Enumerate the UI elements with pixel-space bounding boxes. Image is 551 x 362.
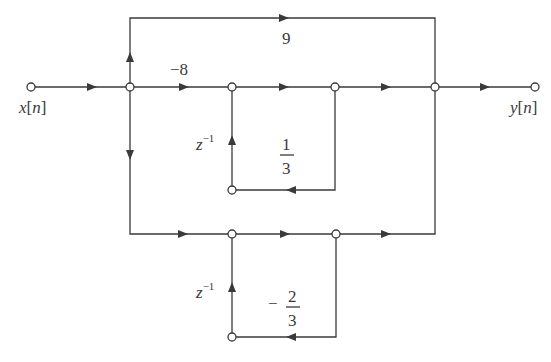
split-node <box>126 83 134 91</box>
lower-tap-node <box>332 230 340 238</box>
arrow-right-icon <box>480 83 490 91</box>
upper-delay-node <box>228 186 236 194</box>
arrow-right-icon <box>280 230 290 238</box>
arrow-up-icon <box>228 135 236 145</box>
output-sum-node <box>431 83 439 91</box>
upper-loop-gain-denominator: 3 <box>282 159 291 178</box>
upper-loop-gain-numerator: 1 <box>282 135 291 154</box>
lower-sum-node <box>228 230 236 238</box>
signal-flow-diagram: x[n] y[n] 9 −8 z−1 z−1 1 3 − 2 3 <box>0 0 551 362</box>
lower-loop-gain-denominator: 3 <box>288 311 297 330</box>
labels: x[n] y[n] 9 −8 z−1 z−1 1 3 − 2 3 <box>18 29 537 330</box>
arrow-right-icon <box>178 230 188 238</box>
arrow-right-icon <box>179 83 189 91</box>
gain-top-feedforward: 9 <box>282 29 291 48</box>
arrow-left-icon <box>286 333 296 341</box>
lower-loop-gain-sign: − <box>268 294 278 313</box>
input-label: x[n] <box>18 98 46 117</box>
lower-feedback-path <box>232 234 336 337</box>
lower-loop-gain-numerator: 2 <box>288 287 297 306</box>
arrow-right-icon <box>381 83 391 91</box>
arrow-right-icon <box>279 14 289 22</box>
lower-delay-node <box>228 333 236 341</box>
nodes <box>27 83 539 341</box>
upper-delay-label: z−1 <box>195 132 214 154</box>
input-node <box>27 83 35 91</box>
gain-middle-path: −8 <box>170 60 188 79</box>
lower-delay-label: z−1 <box>195 280 214 302</box>
upper-sum-node <box>228 83 236 91</box>
arrow-right-icon <box>279 83 289 91</box>
arrow-down-icon <box>126 150 134 160</box>
output-node <box>531 83 539 91</box>
arrow-up-icon <box>126 52 134 62</box>
output-label: y[n] <box>508 98 537 117</box>
lower-split-path <box>130 87 232 234</box>
lower-to-output-path <box>336 87 435 234</box>
arrow-left-icon <box>286 186 296 194</box>
upper-tap-node <box>331 83 339 91</box>
arrow-up-icon <box>228 282 236 292</box>
arrow-right-icon <box>87 83 97 91</box>
arrow-right-icon <box>381 230 391 238</box>
